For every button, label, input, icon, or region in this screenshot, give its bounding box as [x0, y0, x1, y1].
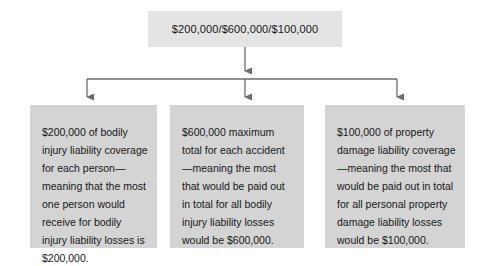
leaf-node-bodily-injury-per-person: $200,000 of bodily injury liability cove… [30, 105, 157, 248]
leaf-node-property-damage: $100,000 of property damage liability co… [325, 105, 465, 248]
leaf-node-bodily-injury-per-accident: $600,000 maximum total for each accident… [170, 105, 304, 248]
leaf-node-label: $200,000 of bodily injury liability cove… [42, 126, 148, 264]
liability-limits-flowchart: $200,000/$600,000/$100,000 $200,000 of b… [0, 0, 489, 266]
root-node-policy-limits: $200,000/$600,000/$100,000 [148, 11, 342, 47]
leaf-node-label: $100,000 of property damage liability co… [337, 126, 455, 246]
root-node-label: $200,000/$600,000/$100,000 [172, 23, 318, 35]
leaf-node-label: $600,000 maximum total for each accident… [182, 126, 285, 246]
